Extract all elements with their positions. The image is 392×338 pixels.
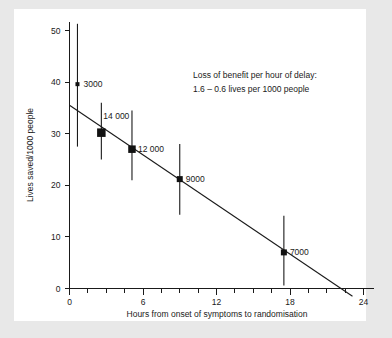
annotation-line-2: 1.6 – 0.6 lives per 1000 people bbox=[193, 84, 310, 94]
y-axis-tick-label: 30 bbox=[51, 129, 61, 139]
y-axis-tick-label: 50 bbox=[51, 26, 61, 36]
data-point-label: 9000 bbox=[186, 174, 205, 184]
point-labels-group: 300014 00012 00090007000 bbox=[83, 79, 309, 257]
x-axis-tick-label: 0 bbox=[67, 297, 72, 307]
axes-group bbox=[65, 22, 375, 295]
y-axis-tick-label: 10 bbox=[51, 232, 61, 242]
data-point-marker bbox=[128, 145, 136, 153]
y-axis-tick-label: 20 bbox=[51, 180, 61, 190]
scatter-chart: 300014 00012 00090007000 061218240102030… bbox=[0, 0, 392, 338]
trend-line-group bbox=[70, 105, 353, 296]
data-point-label: 12 000 bbox=[138, 144, 164, 154]
error-bars-group bbox=[77, 24, 283, 286]
figure-container: 300014 00012 00090007000 061218240102030… bbox=[0, 0, 392, 338]
x-axis-title: Hours from onset of symptoms to randomis… bbox=[127, 309, 308, 319]
annotation-line-1: Loss of benefit per hour of delay: bbox=[193, 70, 317, 80]
x-axis-tick-label: 6 bbox=[141, 297, 146, 307]
y-axis-tick-label: 40 bbox=[51, 77, 61, 87]
data-point-marker bbox=[75, 82, 79, 86]
x-axis-tick-label: 12 bbox=[212, 297, 222, 307]
data-point-label: 14 000 bbox=[103, 111, 129, 121]
x-axis-tick-label: 24 bbox=[359, 297, 369, 307]
data-point-label: 7000 bbox=[290, 247, 309, 257]
data-point-marker bbox=[281, 249, 287, 255]
y-axis-tick-label: 0 bbox=[56, 284, 61, 294]
y-axis-title: Lives saved/1000 people bbox=[25, 108, 35, 202]
data-markers-group bbox=[75, 82, 286, 255]
x-axis-tick-label: 18 bbox=[285, 297, 295, 307]
data-point-marker bbox=[177, 176, 183, 182]
tick-labels-group: 0612182401020304050 bbox=[51, 26, 368, 307]
data-point-label: 3000 bbox=[83, 79, 102, 89]
data-point-marker bbox=[97, 128, 106, 137]
regression-trend-line bbox=[70, 105, 353, 296]
